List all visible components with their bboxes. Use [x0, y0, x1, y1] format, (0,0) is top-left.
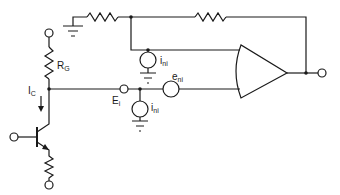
label-ei: Ei: [112, 96, 120, 107]
collector-node-wire: [49, 79, 120, 89]
ground-top-left: [63, 17, 87, 36]
label-ei-main: E: [112, 95, 119, 106]
label-eni: eni: [172, 72, 183, 83]
current-source-ini-top: [140, 50, 156, 83]
feedback-resistor-2: [195, 13, 226, 21]
base-terminal: [10, 133, 18, 141]
ic-arrow-icon: [38, 96, 44, 112]
label-eni-sub: ni: [178, 76, 183, 83]
circuit-diagram: [0, 0, 340, 195]
label-ini-bottom: ini: [151, 103, 159, 114]
op-amp: [236, 45, 287, 98]
feedback-wire-right: [226, 17, 306, 73]
label-rg-sub: G: [64, 65, 69, 72]
current-source-ini-bottom: [132, 89, 148, 131]
label-ini-bottom-sub: ni: [153, 107, 158, 114]
output-terminal: [318, 69, 326, 77]
inverting-input-wire: [131, 17, 240, 50]
emitter-resistor: [45, 153, 53, 181]
label-ic: IC: [28, 86, 36, 97]
input-terminal-ei: [120, 85, 128, 93]
label-ei-sub: i: [119, 100, 121, 107]
rg-top-terminal: [45, 29, 53, 37]
label-ic-sub: C: [31, 90, 36, 97]
label-ini-top: ini: [160, 56, 168, 67]
resistor-rg: [45, 47, 53, 79]
npn-transistor: [18, 89, 49, 153]
label-ini-top-sub: ni: [162, 60, 167, 67]
feedback-resistor-1: [87, 13, 118, 21]
voltage-source-eni: [163, 81, 179, 97]
label-rg: RG: [57, 61, 70, 72]
emitter-terminal: [45, 181, 53, 189]
junction-output: [304, 71, 308, 75]
